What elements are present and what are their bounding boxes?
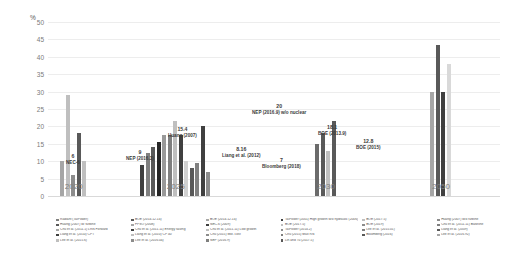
legend-item[interactable]: Bloomberg (2016) (362, 233, 433, 237)
y-axis-tick-label: 30 (0, 88, 44, 95)
data-label-source: Huang (2007) (168, 133, 197, 139)
legend-item[interactable]: NEP (2016.9) (206, 239, 277, 243)
legend-swatch (281, 239, 284, 242)
legend-label: Liang et al. (2010) CPT (60, 233, 94, 237)
legend-swatch (131, 234, 134, 237)
x-axis-label-2020: 2020 (54, 182, 94, 191)
legend-item[interactable]: Chu et al. (2011.11) Low growth (206, 228, 277, 232)
legend-label: Radiant (TaiPower) (60, 218, 88, 222)
legend-label: Chu et al. (2011.1) LRN Forward (60, 228, 108, 232)
legend-item[interactable]: BOE (2019) (362, 223, 433, 227)
legend-swatch (206, 239, 209, 242)
legend-item[interactable]: Lee et al. (2016.04) (131, 239, 202, 243)
bar (447, 64, 451, 196)
legend-swatch (281, 219, 284, 222)
legend-swatch (131, 224, 134, 227)
legend-swatch (56, 234, 59, 237)
x-axis-label-2025: 2025 (156, 182, 196, 191)
legend-item[interactable]: Chu (2015) Mkt. cost (206, 233, 277, 237)
legend-label: Chu (2015) Max RN (285, 233, 314, 237)
data-label: 6NEC-6 (66, 153, 80, 165)
y-axis-tick-label: 25 (0, 106, 44, 113)
legend-swatch (437, 234, 440, 237)
legend-swatch (56, 229, 59, 232)
bar (201, 126, 205, 196)
legend-label: BOE (2019) (366, 223, 383, 227)
y-axis-tick-label: 20 (0, 123, 44, 130)
legend-label: Huang (2007) w/o turbine (441, 218, 478, 222)
legend-label: TaiPower (2001) High growth w/o hydrauli… (285, 218, 358, 222)
legend-item[interactable]: Huang (2007) w/o turbine (437, 218, 508, 222)
y-axis-tick-label: 15 (0, 140, 44, 147)
y-axis-tick-label: 10 (0, 158, 44, 165)
legend-swatch (437, 219, 440, 222)
legend-item[interactable]: BOE (2014.12.14) (206, 218, 277, 222)
data-label-source: NEP (2016.3) (126, 156, 154, 162)
legend-item[interactable]: FPSO (2008) (131, 223, 202, 227)
legend-item[interactable]: Chu et al. (2011.1) LRN Forward (56, 228, 127, 232)
y-axis-tick-label: 45 (0, 36, 44, 43)
legend-item[interactable]: Chu et al. (2011.11) Energy saving (131, 228, 202, 232)
legend-label: BOE (2014.12.14) (210, 218, 237, 222)
chart-container: % 50454035302520151050 2020202520302050 … (0, 0, 516, 270)
legend-swatch (281, 234, 284, 237)
legend-item[interactable]: BOE (2017.5) (362, 218, 433, 222)
legend-column: BOE (2014.12.14)FPSO (2008)Chu et al. (2… (131, 218, 202, 266)
legend-label: Lee et al. (2016.92) (441, 233, 470, 237)
legend-item[interactable]: TaiPower (2014.2) (281, 228, 358, 232)
legend-column: Huang (2007) w/o turbineChu et al. (2011… (437, 218, 508, 266)
legend-item[interactable]: Lee et al. (2016.92) (437, 233, 508, 237)
legend-item[interactable]: NEC-6 (2009) (206, 223, 277, 227)
x-axis-label-2030: 2030 (306, 182, 346, 191)
legend-item[interactable]: Radiant (TaiPower) (56, 218, 127, 222)
legend-label: Liang et al. (2010) CP 40 (135, 233, 172, 237)
legend-column: Radiant (TaiPower)Huang (2007) w/ turbin… (56, 218, 127, 266)
legend-swatch (362, 229, 365, 232)
y-axis-tick-label: 0 (0, 193, 44, 200)
legend-swatch (206, 224, 209, 227)
data-label: 15.4Huang (2007) (168, 126, 197, 138)
data-label-source: BOE (2015) (356, 145, 381, 151)
y-axis-tick-label: 40 (0, 53, 44, 60)
legend-swatch (362, 234, 365, 237)
legend-item[interactable]: Chu et al. (2011.11) Baseline (437, 223, 508, 227)
legend-label: BOE (2017.5) (285, 223, 305, 227)
legend-column: BOE (2017.5)BOE (2019)Lee et al. (2015.0… (362, 218, 433, 266)
data-label-source: NEC-6 (66, 160, 80, 166)
legend-item[interactable]: BOE (2017.5) (281, 223, 358, 227)
legend-label: Chu et al. (2011.11) Low growth (210, 228, 256, 232)
legend-label: Chu et al. (2011.11) Energy saving (135, 228, 185, 232)
legend-swatch (206, 219, 209, 222)
data-label-source: NEP (2016.9) w/o nuclear (252, 110, 306, 116)
legend-item[interactable]: TaiPower (2001) High growth w/o hydrauli… (281, 218, 358, 222)
legend-label: BOE (2017.5) (366, 218, 386, 222)
bar-group-2025 (140, 22, 212, 196)
legend-swatch (56, 239, 59, 242)
x-axis-label-2050: 2050 (421, 182, 461, 191)
legend-label: Lee et al. (2015.6) (60, 239, 87, 243)
bar (206, 172, 210, 196)
legend-label: BOE (2014.12.14) (135, 218, 162, 222)
legend-item[interactable]: Huang (2007) w/ turbine (56, 223, 127, 227)
y-axis-tick-label: 35 (0, 71, 44, 78)
data-label-source: Liang et al. (2012) (222, 153, 261, 159)
x-axis-line (48, 196, 500, 197)
bar (436, 45, 440, 196)
legend-item[interactable]: BOE (2014.12.14) (131, 218, 202, 222)
legend-item[interactable]: Liang et al. (2010) CPT (56, 233, 127, 237)
legend-item[interactable]: Lee et al. (2015.01) (362, 228, 433, 232)
data-label: 8.16Liang et al. (2012) (222, 146, 261, 158)
legend-item[interactable]: Liang et al. (2010) CP 40 (131, 233, 202, 237)
legend-item[interactable]: Liang et al. (2009) (437, 228, 508, 232)
legend-item[interactable]: Lee et al. (2015.6) (56, 239, 127, 243)
legend-label: Huang (2007) w/ turbine (60, 223, 95, 227)
legend-item[interactable]: Chu (2015) Max RN (281, 233, 358, 237)
legend-label: Chu et al. (2011.11) Baseline (441, 223, 483, 227)
bar (66, 95, 70, 196)
legend-swatch (206, 234, 209, 237)
legend-label: TaiPower (2014.2) (285, 228, 312, 232)
y-axis-tick-label: 50 (0, 19, 44, 26)
legend-label: Chu (2015) Mkt. cost (210, 233, 241, 237)
legend-item[interactable]: Lin and Tu (2017.5) (281, 239, 358, 243)
legend-label: Liang et al. (2009) (441, 228, 468, 232)
